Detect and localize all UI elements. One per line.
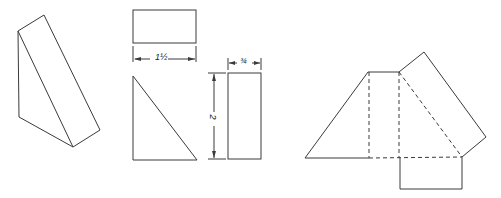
development-net <box>305 52 486 189</box>
pictorial-prism <box>18 15 100 147</box>
side-view <box>208 58 261 159</box>
diagram-canvas <box>0 0 501 198</box>
front-view <box>133 76 197 160</box>
depth-dimension-label: ¾ <box>240 56 247 65</box>
height-dimension-label: 2 <box>208 114 218 119</box>
width-dimension-label: 1½ <box>155 52 168 62</box>
